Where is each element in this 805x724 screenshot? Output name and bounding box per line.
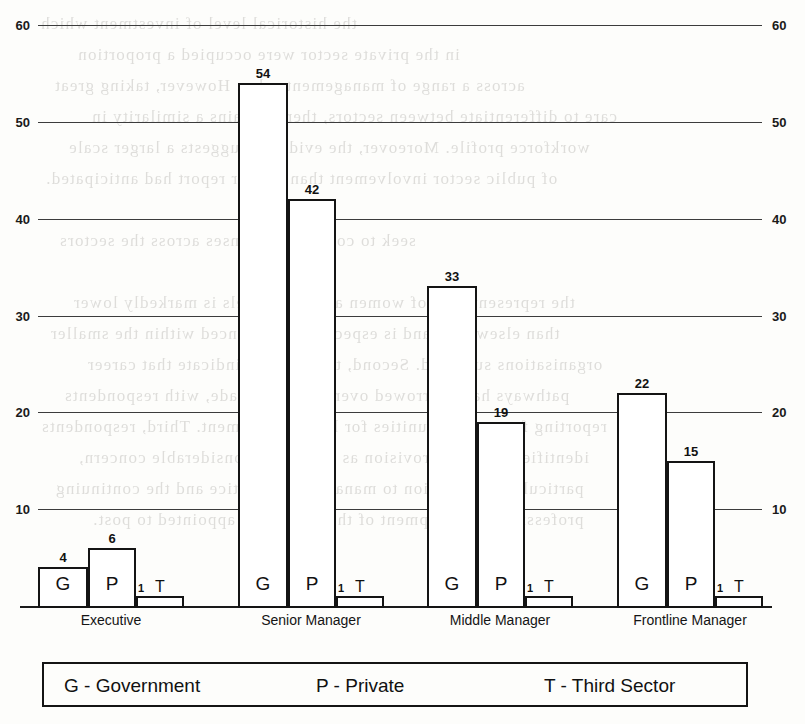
legend-entry: T - Third Sector (544, 676, 675, 695)
bar-series-letter: G (38, 574, 88, 593)
bar-value-label: 19 (477, 406, 525, 419)
bar-p (288, 199, 336, 608)
gridline (38, 219, 762, 220)
bar-value-label: 54 (238, 67, 288, 80)
group-label: Frontline Manager (617, 613, 763, 628)
legend-entry: P - Private (316, 676, 404, 695)
y-axis-tick-right: 20 (772, 406, 800, 419)
y-axis-tick-left: 40 (8, 213, 30, 226)
bar-value-label: 4 (38, 551, 88, 564)
bar-value-label: 42 (288, 183, 336, 196)
group-label: Executive (38, 613, 184, 628)
bar-series-letter: P (477, 574, 525, 593)
bar-series-letter: G (427, 574, 477, 593)
bar-value-label: 6 (88, 532, 136, 545)
bar-g (238, 83, 288, 608)
bar-t (136, 596, 184, 608)
y-axis-tick-left: 30 (8, 310, 30, 323)
bar-t (525, 596, 573, 608)
y-axis-tick-right: 30 (772, 310, 800, 323)
y-axis-tick-left: 20 (8, 406, 30, 419)
group-label: Middle Manager (427, 613, 573, 628)
gridline (38, 25, 762, 26)
legend-entry: G - Government (64, 676, 200, 695)
bar-series-letter: G (238, 574, 288, 593)
bar-t (715, 596, 763, 608)
bar-series-letter: G (617, 574, 667, 593)
bar-series-letter: P (667, 574, 715, 593)
bar-series-letter: T (539, 579, 559, 595)
y-axis-tick-right: 10 (772, 503, 800, 516)
bar-series-letter: P (288, 574, 336, 593)
bar-g (427, 286, 477, 608)
gridline (38, 316, 762, 317)
y-axis-tick-right: 50 (772, 116, 800, 129)
y-axis-tick-right: 40 (772, 213, 800, 226)
bar-series-letter: T (729, 579, 749, 595)
bar-series-letter: T (150, 579, 170, 595)
bar-value-label: 22 (617, 377, 667, 390)
bar-chart: 606050504040303020201010 4G6P1T54G42P1T3… (0, 0, 805, 724)
y-axis-tick-right: 60 (772, 19, 800, 32)
legend: G - GovernmentP - PrivateT - Third Secto… (42, 662, 748, 707)
y-axis-tick-left: 60 (8, 19, 30, 32)
gridline (38, 122, 762, 123)
bar-t (336, 596, 384, 608)
bar-series-letter: P (88, 574, 136, 593)
y-axis-tick-left: 50 (8, 116, 30, 129)
bar-value-label: 33 (427, 270, 477, 283)
y-axis-tick-left: 10 (8, 503, 30, 516)
bar-value-label: 15 (667, 445, 715, 458)
bar-series-letter: T (350, 579, 370, 595)
group-label: Senior Manager (238, 613, 384, 628)
